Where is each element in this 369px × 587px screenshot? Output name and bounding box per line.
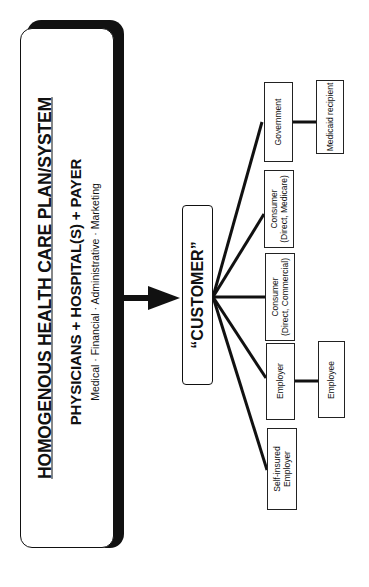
customer-label: “CUSTOMER” <box>189 241 207 348</box>
segment-line: Employer <box>275 363 285 399</box>
segment-line: Government <box>273 99 283 146</box>
segment-consumer-medicare-label: Consumer (Direct, Medicare) <box>269 175 289 243</box>
segment-line: (Direct, Medicare) <box>279 175 289 243</box>
arrow-head-icon <box>148 286 180 310</box>
segment-employer-label: Employer <box>275 363 285 399</box>
segment-line: (Direct, Commercial) <box>280 258 290 336</box>
segment-line: Self-insured <box>272 446 282 491</box>
subsegment-employee-label: Employee <box>326 361 336 399</box>
segment-line: Employer <box>282 446 292 491</box>
segment-line: Consumer <box>269 175 279 243</box>
subsegment-medicaid-label: Medicaid recipient <box>325 83 335 152</box>
segment-government-label: Government <box>273 99 283 146</box>
segment-self-insured-employer-label: Self-insured Employer <box>272 446 292 491</box>
segment-line: Consumer <box>270 258 280 336</box>
segment-consumer-commercial-label: Consumer (Direct, Commercial) <box>270 258 290 336</box>
